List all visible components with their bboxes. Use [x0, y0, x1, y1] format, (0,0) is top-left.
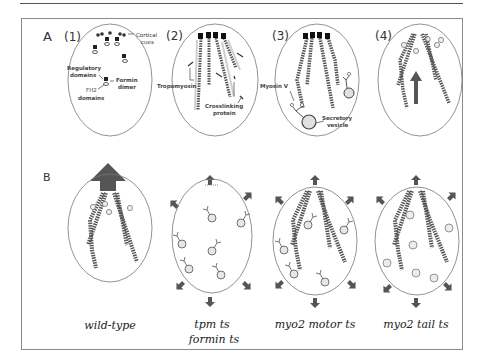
label-protein: protein	[213, 110, 236, 117]
label-crosslinking: Crosslinking	[205, 103, 243, 110]
label-dimer: dimer	[118, 84, 136, 90]
label-regulatory: Regulatory	[67, 65, 102, 72]
caption-formin-ts: formin ts	[188, 333, 240, 346]
caption-myo2-tail-ts: myo2 tail ts	[383, 318, 449, 331]
label-tropomyosin: Tropomyosin	[157, 83, 197, 90]
panel-b-label: B	[43, 171, 51, 184]
label-fh2-domains: domains	[78, 95, 105, 101]
panel-a-label: A	[43, 29, 52, 44]
yeast-polarity-figure: A (1) Co	[0, 0, 481, 364]
label-formin: Formin	[116, 77, 138, 83]
label-regulatory-domains: domains	[70, 72, 97, 78]
step-1-number: (1)	[64, 30, 81, 44]
label-secretory: Secretory	[322, 115, 353, 122]
label-vesicle: vesicle	[327, 122, 349, 128]
caption-tpm-ts: tpm ts	[194, 318, 230, 331]
caption-myo2-motor-ts: myo2 motor ts	[275, 318, 356, 331]
caption-wild-type: wild-type	[84, 319, 136, 332]
label-cortical: Cortical	[136, 32, 158, 38]
label-cues: cues	[141, 39, 154, 45]
label-fh2: FH2	[86, 87, 97, 93]
label-myosin-v: Myosin V	[260, 83, 289, 90]
step-2-number: (2)	[166, 29, 183, 43]
